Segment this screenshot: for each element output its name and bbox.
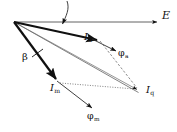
phasor-diagram: E Ia Im Iq φa φm β bbox=[0, 0, 177, 132]
angle-label-phi-m-base: φ bbox=[87, 110, 94, 121]
vector-phim-line bbox=[57, 81, 92, 108]
angle-label-phi-a-base: φ bbox=[118, 47, 125, 58]
angle-label-phi-a-subscript: a bbox=[125, 53, 128, 59]
angle-label-phi-m-subscript: m bbox=[94, 116, 99, 122]
axis-label-E: E bbox=[162, 10, 170, 21]
vector-label-Ia-subscript: a bbox=[88, 36, 92, 43]
angle-label-phi-m: φm bbox=[87, 111, 99, 121]
angle-label-beta: β bbox=[22, 52, 28, 62]
angle-indicator-arrow bbox=[63, 1, 69, 24]
vector-label-Im-subscript: m bbox=[54, 87, 60, 94]
vector-phia-line bbox=[92, 39, 116, 51]
vector-label-Iq-subscript: q bbox=[150, 89, 154, 96]
angle-label-phi-a: φa bbox=[118, 48, 128, 58]
vector-label-Iq: Iq bbox=[146, 85, 154, 95]
vector-label-Im: Im bbox=[50, 83, 60, 93]
vector-label-Ia: Ia bbox=[84, 32, 91, 42]
